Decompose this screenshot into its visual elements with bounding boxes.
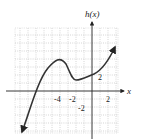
y-tick-2: 2 <box>98 73 102 82</box>
y-tick-neg2: -2 <box>78 104 85 113</box>
x-tick-neg4: -4 <box>54 95 61 104</box>
y-axis-label: h(x) <box>85 9 100 19</box>
graph: h(x) x -4 -2 2 2 -2 <box>0 0 141 139</box>
axes <box>6 22 124 139</box>
x-axis-label: x <box>126 86 131 96</box>
x-tick-neg2: -2 <box>69 95 76 104</box>
x-tick-2: 2 <box>106 95 110 104</box>
grid <box>15 28 118 133</box>
